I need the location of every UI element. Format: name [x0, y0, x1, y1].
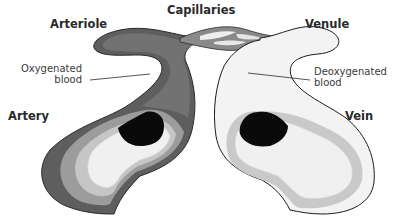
- oxygenated-blood-label: Oxygenated blood: [18, 64, 82, 85]
- deoxygenated-line1: Deoxygenated: [314, 67, 387, 78]
- deoxygenated-blood-label: Deoxygenated blood: [314, 67, 387, 88]
- vein-label: Vein: [345, 110, 373, 122]
- venule-label: Venule: [305, 18, 349, 30]
- deoxygenated-line2: blood: [314, 78, 387, 89]
- blood-vessel-diagram: [0, 0, 396, 222]
- artery-label: Artery: [8, 110, 49, 122]
- oxygenated-pointer-line: [90, 74, 150, 80]
- artery-shape: [42, 28, 200, 214]
- oxygenated-line2: blood: [18, 75, 82, 86]
- arteriole-label: Arteriole: [50, 18, 107, 30]
- oxygenated-line1: Oxygenated: [18, 64, 82, 75]
- capillaries-label: Capillaries: [167, 4, 235, 16]
